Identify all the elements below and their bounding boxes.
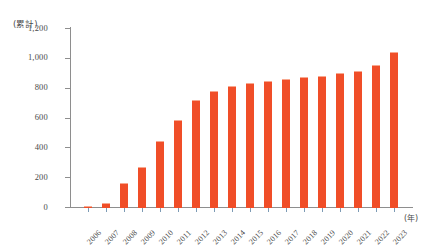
x-axis-tick-label: 2018 [301,228,319,246]
x-axis-tick [178,208,179,212]
x-axis-tick [250,208,251,212]
bar [210,91,218,208]
x-axis-tick-label: 2014 [229,228,247,246]
x-axis-tick [358,208,359,212]
x-axis-tick [376,208,377,212]
x-axis-tick [286,208,287,212]
x-axis-tick-label: 2020 [337,228,355,246]
y-axis-tick-label: 200 [35,173,48,182]
x-axis-tick-label: 2013 [211,228,229,246]
bar [246,83,254,208]
y-axis-tick [65,177,70,178]
bar [192,100,200,208]
bar [372,65,380,208]
cumulative-bar-chart: (累計) 02004006008001,0001,200 20062007200… [0,0,430,250]
x-axis-tick-label: 2015 [247,228,265,246]
plot-area: 02004006008001,0001,200 2006200720082009… [70,28,412,207]
y-axis-tick-label: 400 [35,143,48,152]
x-axis-tick-label: 2022 [373,228,391,246]
bar [282,79,290,208]
x-axis-tick-label: 2021 [355,228,373,246]
bar [228,86,236,208]
x-axis-tick [196,208,197,212]
bar [300,77,308,208]
bar [390,52,398,208]
x-axis-tick [106,208,107,212]
y-axis-tick [65,118,70,119]
bar [102,203,110,208]
x-axis-tick [322,208,323,212]
x-axis-tick [142,208,143,212]
y-axis-tick-label: 1,000 [28,53,48,62]
bar [156,141,164,208]
x-axis-tick-label: 2023 [391,228,409,246]
x-axis-tick-label: 2012 [193,228,211,246]
x-axis-tick-label: 2010 [157,228,175,246]
y-axis-tick [65,147,70,148]
y-axis-tick [65,28,70,29]
x-axis-tick [160,208,161,212]
x-axis-tick [304,208,305,212]
bar [336,73,344,208]
x-axis-tick [232,208,233,212]
bar [264,81,272,208]
x-axis-tick-label: 2008 [121,228,139,246]
x-axis-tick-label: 2007 [103,228,121,246]
x-axis-tick [268,208,269,212]
x-axis-tick-label: 2011 [175,228,193,246]
x-axis-tick-label: 2017 [283,228,301,246]
x-axis-tick [340,208,341,212]
y-axis-tick-label: 1,200 [28,24,48,33]
bar [84,206,92,208]
y-axis-tick-label: 800 [35,83,48,92]
y-axis-tick [65,58,70,59]
x-axis-tick-label: 2016 [265,228,283,246]
bar [354,71,362,208]
x-axis-tick-label: 2009 [139,228,157,246]
y-axis-tick-label: 0 [44,203,48,212]
bar [120,183,128,208]
bar [318,76,326,208]
y-axis-tick-label: 600 [35,113,48,122]
y-axis-tick [65,88,70,89]
x-axis-unit-label: (年) [404,214,418,223]
x-axis-tick [124,208,125,212]
x-axis-tick-label: 2006 [85,228,103,246]
x-axis-tick-label: 2019 [319,228,337,246]
bar [174,120,182,208]
x-axis-tick [214,208,215,212]
x-axis-tick [88,208,89,212]
y-axis-tick [65,207,70,208]
x-axis-tick [394,208,395,212]
bar [138,167,146,208]
